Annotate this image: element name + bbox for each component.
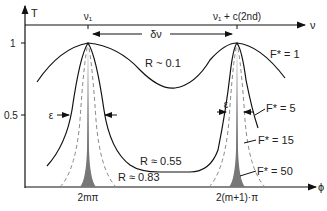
curve-f50-peak1	[80, 43, 96, 187]
top-axis-label: ν	[310, 19, 316, 31]
f15-label: F* = 15	[258, 134, 294, 146]
y-tick-1: 1	[10, 38, 16, 49]
bottom-tick-2m1pi: 2(m+1)·π	[216, 192, 258, 203]
y-axis-label: T	[31, 7, 38, 19]
f1-label: F* = 1	[270, 48, 300, 60]
top-tick-nu1: ν₁	[84, 11, 93, 22]
y-tick-05: 0.5	[4, 110, 18, 121]
epsilon-left-label: ε	[49, 110, 54, 121]
bottom-tick-2mpi: 2mπ	[78, 192, 99, 203]
epsilon-right-label: ε	[224, 99, 229, 110]
r-01-label: R ~ 0.1	[145, 57, 181, 69]
airy-function-diagram: T ν ϕ 1 0.5 ν₁ ν₁ + c(2nd) 2mπ 2(m+1)·π …	[0, 0, 327, 211]
top-tick-nu1-plus: ν₁ + c(2nd)	[213, 11, 261, 22]
f50-label: F* = 50	[257, 165, 293, 177]
r-083-label: R ≈ 0.83	[118, 171, 160, 183]
bottom-axis-label: ϕ	[318, 181, 324, 193]
fsr-label: δν	[150, 28, 162, 40]
f5-label: F* = 5	[266, 102, 296, 114]
r-055-label: R ≈ 0.55	[140, 155, 182, 167]
